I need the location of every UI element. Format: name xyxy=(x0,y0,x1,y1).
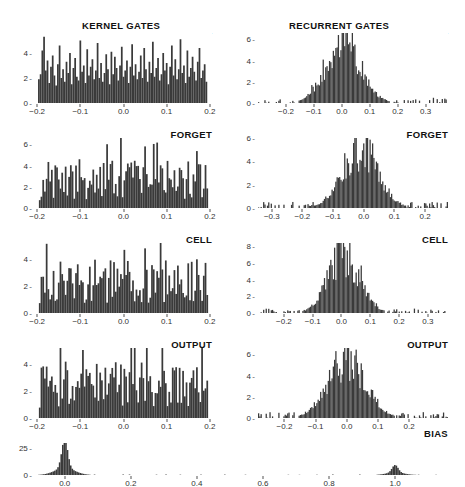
plot-area-bias xyxy=(35,443,448,476)
x-tick-label-bias-4: 0.8 xyxy=(323,479,334,487)
x-tick-label-bias-0: 0.0 xyxy=(59,479,70,487)
histogram-panel-bias: BIAS0-25-0.00.20.40.60.81.0 xyxy=(0,0,465,487)
x-tick-label-bias-2: 0.4 xyxy=(191,479,202,487)
x-tick-label-bias-3: 0.6 xyxy=(257,479,268,487)
x-tick-label-bias-1: 0.2 xyxy=(125,479,136,487)
panel-title-bias: BIAS xyxy=(0,428,448,439)
y-tick-label-bias-0: 0- xyxy=(0,471,32,480)
x-tick-label-bias-5: 1.0 xyxy=(390,479,401,487)
y-tick-label-bias-1: 25- xyxy=(0,444,32,453)
lstm-weight-histogram-figure: KERNEL GATES RECURRENT GATES INPUT0-2-4-… xyxy=(0,0,465,487)
